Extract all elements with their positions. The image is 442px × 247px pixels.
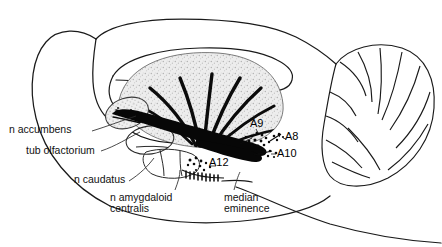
- label-n-accumbens: n accumbens: [9, 124, 71, 136]
- label-median-eminence-line2: eminence: [224, 203, 270, 215]
- label-tub-olfactorium: tub olfactorium: [26, 145, 95, 157]
- cerebellum-outline: [322, 45, 434, 186]
- label-n-caudatus: n caudatus: [74, 174, 125, 186]
- label-a8: A8: [285, 130, 298, 142]
- a8-cell-cluster: [270, 133, 284, 141]
- brain-diagram-figure: n accumbens tub olfactorium n caudatus n…: [0, 0, 442, 247]
- label-n-amygdaloid-centralis-line2: centralis: [110, 203, 149, 215]
- label-a10: A10: [277, 147, 297, 159]
- label-a12: A12: [209, 156, 229, 168]
- label-a9: A9: [250, 117, 263, 129]
